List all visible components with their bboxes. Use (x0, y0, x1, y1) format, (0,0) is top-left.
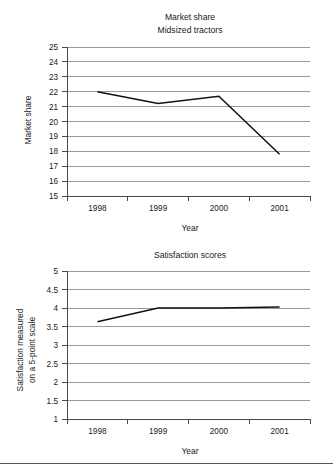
chart-title-line1: Satisfaction scores (154, 250, 226, 260)
x-tick-labels: 1998 1999 2000 2001 (88, 427, 289, 436)
chart-satisfaction: Satisfaction scores Satisfaction measure… (0, 238, 333, 460)
market-share-svg: Market share Midsized tractors Market sh… (0, 0, 333, 238)
y-axis-title: Market share (23, 95, 33, 144)
y-tick-label: 3 (53, 341, 58, 350)
chart-title-line1: Market share (165, 12, 215, 22)
gridlines (67, 271, 310, 419)
y-tick-label: 24 (49, 58, 59, 67)
x-axis (67, 196, 310, 201)
y-axis-title-line1: Satisfaction measured (15, 308, 25, 391)
x-tick-label: 2001 (270, 204, 289, 213)
x-axis-title: Year (182, 223, 199, 233)
y-tick-labels: 5 4.5 4 3.5 3 2.5 2 1.5 1 (47, 267, 59, 424)
satisfaction-svg: Satisfaction scores Satisfaction measure… (0, 238, 333, 460)
figure-two-line-charts: Market share Midsized tractors Market sh… (0, 0, 333, 474)
x-axis (67, 419, 310, 424)
series-line-satisfaction (97, 307, 279, 322)
y-tick-label: 22 (49, 88, 59, 97)
y-axis-title-group: Satisfaction measured on a 5-point scale (15, 308, 37, 391)
x-tick-label: 1998 (88, 427, 107, 436)
y-tick-label: 5 (53, 267, 58, 276)
y-tick-label: 15 (49, 192, 59, 201)
y-axis (62, 271, 67, 419)
x-tick-label: 2000 (210, 427, 229, 436)
y-tick-label: 4.5 (47, 286, 59, 295)
y-tick-label: 2 (53, 378, 58, 387)
y-tick-label: 18 (49, 147, 59, 156)
x-tick-label: 2000 (210, 204, 229, 213)
y-axis (62, 47, 67, 196)
x-tick-labels: 1998 1999 2000 2001 (88, 204, 289, 213)
y-tick-label: 19 (49, 132, 59, 141)
y-tick-label: 2.5 (47, 360, 59, 369)
x-tick-label: 2001 (270, 427, 289, 436)
y-tick-label: 1.5 (47, 397, 59, 406)
x-axis-title: Year (182, 446, 199, 456)
gridlines (67, 47, 310, 196)
footer-divider (0, 463, 333, 464)
chart-title-line2: Midsized tractors (158, 25, 223, 35)
y-axis-title-line2: on a 5-point scale (27, 317, 37, 383)
y-tick-label: 1 (53, 415, 58, 424)
y-tick-label: 20 (49, 118, 59, 127)
series-line-market-share (97, 92, 279, 155)
x-tick-label: 1999 (149, 204, 168, 213)
y-tick-label: 3.5 (47, 323, 59, 332)
y-tick-label: 23 (49, 73, 59, 82)
chart-market-share: Market share Midsized tractors Market sh… (0, 0, 333, 238)
y-tick-label: 21 (49, 103, 59, 112)
y-tick-labels: 25 24 23 22 21 20 19 18 17 16 15 (49, 43, 59, 201)
y-tick-label: 17 (49, 162, 59, 171)
y-tick-label: 16 (49, 177, 59, 186)
y-tick-label: 4 (53, 304, 58, 313)
x-tick-label: 1999 (149, 427, 168, 436)
y-axis-title-group: Market share (23, 95, 33, 144)
y-tick-label: 25 (49, 43, 59, 52)
x-tick-label: 1998 (88, 204, 107, 213)
